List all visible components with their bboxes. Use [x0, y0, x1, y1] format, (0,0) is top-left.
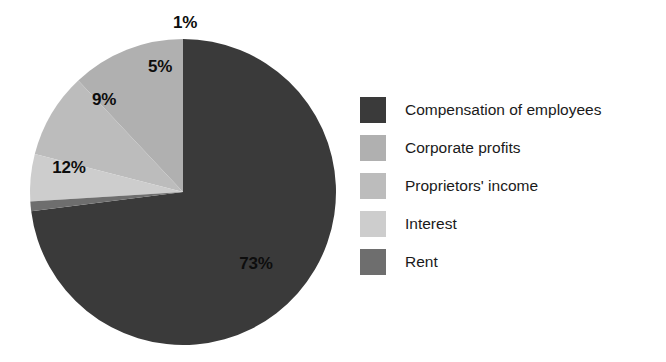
pie-chart-plot-area: 1% 5% 9% 12% 73% [0, 0, 360, 362]
legend-item-label: Corporate profits [405, 140, 520, 156]
legend-swatch-icon [360, 97, 386, 123]
slice-label-compensation-of-employees: 73% [239, 255, 272, 272]
legend-item-proprietors-income: Proprietors' income [360, 172, 660, 200]
legend-item-label: Interest [405, 216, 457, 232]
legend-swatch-icon [360, 173, 386, 199]
legend-item-corporate-profits: Corporate profits [360, 134, 660, 162]
legend-swatch-icon [360, 211, 386, 237]
legend-item-label: Compensation of employees [405, 102, 601, 118]
legend-item-rent: Rent [360, 248, 660, 276]
legend-item-compensation-of-employees: Compensation of employees [360, 96, 660, 124]
slice-label-corporate-profits: 12% [52, 159, 85, 176]
chart-legend: Compensation of employees Corporate prof… [360, 96, 660, 276]
legend-item-label: Proprietors' income [405, 178, 538, 194]
slice-label-interest: 5% [148, 58, 172, 75]
legend-swatch-icon [360, 249, 386, 275]
pie-chart-svg [0, 0, 360, 362]
legend-swatch-icon [360, 135, 386, 161]
pie-slice-group [30, 39, 336, 345]
legend-item-label: Rent [405, 254, 438, 270]
pie-chart-figure: 1% 5% 9% 12% 73% Compensation of employe… [0, 0, 666, 362]
slice-label-proprietors-income: 9% [92, 91, 116, 108]
slice-label-rent: 1% [173, 14, 197, 31]
legend-item-interest: Interest [360, 210, 660, 238]
